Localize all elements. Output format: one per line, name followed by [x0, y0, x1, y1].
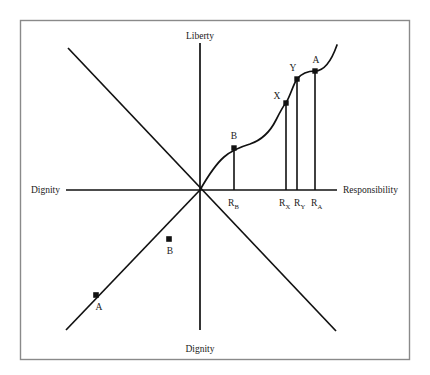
figure-container: Liberty Dignity Dignity Responsibility B…: [0, 0, 430, 375]
axis-label-liberty: Liberty: [186, 31, 214, 41]
axis-label-dignity-bottom: Dignity: [185, 344, 214, 354]
point-label-a-curve: A: [313, 55, 320, 65]
point-label-y-curve: Y: [290, 63, 297, 73]
point-label-b-curve: B: [231, 131, 237, 141]
tick-label-rx-sub: X: [286, 203, 291, 210]
marker-point-x-curve: [283, 100, 288, 105]
liberty-responsibility-diagram: Liberty Dignity Dignity Responsibility B…: [0, 0, 430, 375]
tick-label-ra-sub: A: [318, 203, 323, 210]
tick-label-ry-sub: Y: [301, 203, 306, 210]
point-label-b-diagonal: B: [167, 246, 173, 256]
point-label-a-diagonal: A: [96, 302, 103, 312]
tick-label-rb-sub: B: [235, 203, 240, 210]
marker-point-b-diagonal: [166, 236, 172, 242]
axis-label-dignity-left: Dignity: [31, 185, 60, 195]
point-label-x-curve: X: [274, 91, 281, 101]
marker-point-a-diagonal: [93, 292, 99, 298]
marker-point-a-curve: [312, 68, 317, 73]
axis-label-responsibility: Responsibility: [343, 185, 398, 195]
marker-point-b-curve: [231, 145, 236, 150]
marker-point-y-curve: [294, 76, 299, 81]
